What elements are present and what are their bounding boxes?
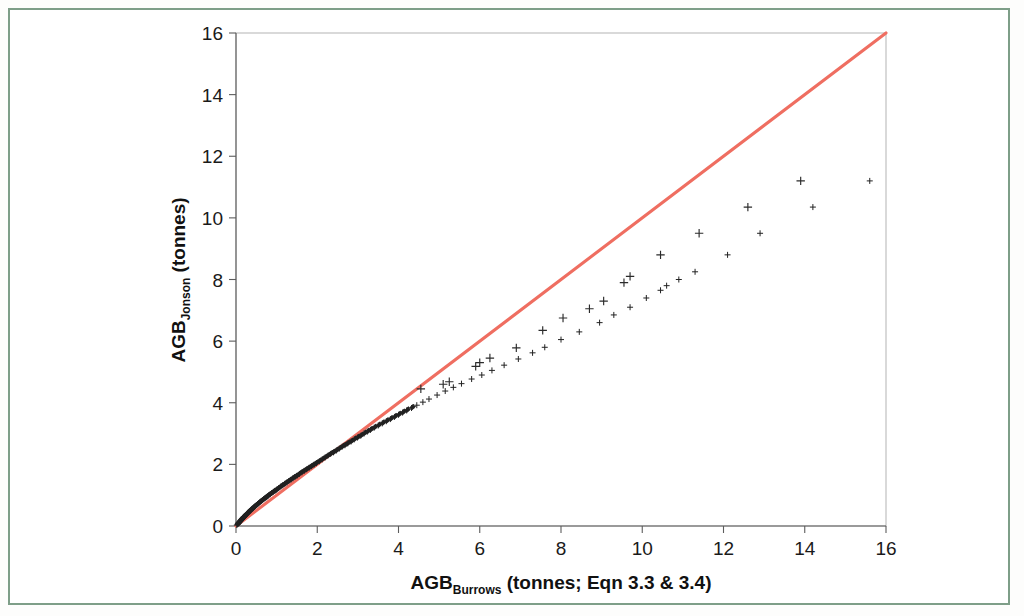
data-point-markers [234, 178, 873, 528]
data-point-plus-icon [656, 251, 664, 259]
data-point-plus-icon [434, 392, 440, 398]
y-axis-ticks: 0246810121416 [202, 23, 236, 537]
data-point-plus-icon [530, 350, 536, 356]
y-axis-title: AGBJonson (tonnes) [168, 197, 193, 362]
data-point-plus-icon [426, 396, 432, 402]
data-point-plus-icon [515, 356, 521, 362]
x-axis-title: AGBBurrows (tonnes; Eqn 3.3 & 3.4) [410, 572, 711, 597]
x-tick-label: 12 [713, 538, 734, 559]
data-point-plus-icon [486, 354, 494, 362]
data-point-plus-icon [744, 203, 752, 211]
data-point-plus-icon [664, 283, 670, 289]
data-point-plus-icon [558, 337, 564, 343]
x-tick-label: 6 [474, 538, 485, 559]
data-point-plus-icon [725, 252, 731, 258]
x-tick-label: 14 [794, 538, 816, 559]
y-tick-label: 6 [212, 331, 223, 352]
data-point-plus-icon [559, 314, 567, 322]
y-tick-label: 12 [202, 146, 223, 167]
data-point-plus-icon [420, 399, 426, 405]
y-axis-title-tail: (tonnes) [168, 197, 189, 277]
data-point-plus-icon [796, 177, 804, 185]
data-point-plus-icon [417, 385, 425, 393]
y-axis-title-main: AGB [168, 320, 189, 362]
x-axis-title-main: AGB [410, 572, 452, 593]
data-point-plus-icon [597, 320, 603, 326]
y-tick-label: 2 [212, 454, 223, 475]
x-tick-label: 16 [875, 538, 896, 559]
x-tick-label: 0 [231, 538, 242, 559]
y-tick-label: 4 [212, 393, 223, 414]
y-tick-label: 14 [202, 85, 224, 106]
y-tick-label: 16 [202, 23, 223, 44]
data-point-plus-icon [442, 388, 448, 394]
x-tick-label: 2 [312, 538, 323, 559]
data-point-plus-icon [542, 344, 548, 350]
x-axis-title-tail: (tonnes; Eqn 3.3 & 3.4) [501, 572, 711, 593]
data-point-plus-icon [476, 358, 484, 366]
data-point-plus-icon [627, 304, 633, 310]
x-tick-label: 8 [556, 538, 567, 559]
x-axis-ticks: 0246810121416 [231, 526, 897, 559]
outlier-point-markers [417, 177, 805, 393]
data-point-plus-icon [501, 362, 507, 368]
data-point-plus-icon [695, 229, 703, 237]
data-point-plus-icon [471, 362, 479, 370]
x-tick-label: 10 [632, 538, 653, 559]
data-point-plus-icon [676, 277, 682, 283]
data-point-plus-icon [867, 178, 873, 184]
data-point-plus-icon [692, 269, 698, 275]
data-point-plus-icon [626, 272, 634, 280]
x-axis-title-subscript: Burrows [453, 583, 502, 597]
data-point-plus-icon [585, 305, 593, 313]
y-tick-label: 10 [202, 208, 223, 229]
y-tick-label: 8 [212, 270, 223, 291]
data-point-plus-icon [512, 344, 520, 352]
data-point-plus-icon [539, 326, 547, 334]
data-point-plus-icon [757, 230, 763, 236]
data-point-plus-icon [599, 297, 607, 305]
y-axis-title-subscript: Jonson [179, 278, 193, 321]
data-point-plus-icon [611, 312, 617, 318]
scatter-chart: 0246810121416 0246810121416 AGBBurrows (… [0, 0, 1024, 616]
data-point-plus-icon [620, 278, 628, 286]
data-point-plus-icon [643, 295, 649, 301]
data-point-plus-icon [479, 372, 485, 378]
data-point-plus-icon [810, 204, 816, 210]
y-tick-label: 0 [212, 516, 223, 537]
data-point-plus-icon [576, 329, 582, 335]
x-tick-label: 4 [393, 538, 404, 559]
data-point-plus-icon [469, 376, 475, 382]
data-point-plus-icon [658, 287, 664, 293]
data-point-plus-icon [458, 381, 464, 387]
data-point-plus-icon [450, 384, 456, 390]
data-point-plus-icon [489, 367, 495, 373]
scanned-page: 0246810121416 0246810121416 AGBBurrows (… [0, 0, 1024, 616]
